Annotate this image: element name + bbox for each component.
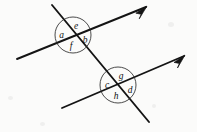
angle-label-f: f: [70, 41, 74, 51]
angle-label-h: h: [114, 91, 119, 101]
geometry-figure: a e b f c g d h: [0, 0, 197, 132]
angle-label-a: a: [59, 30, 64, 40]
angle-label-e: e: [74, 21, 78, 31]
angle-label-g: g: [119, 71, 124, 81]
geometry-canvas: a e b f c g d h: [0, 0, 197, 132]
angle-label-b: b: [83, 35, 88, 45]
angle-label-d: d: [128, 85, 133, 95]
